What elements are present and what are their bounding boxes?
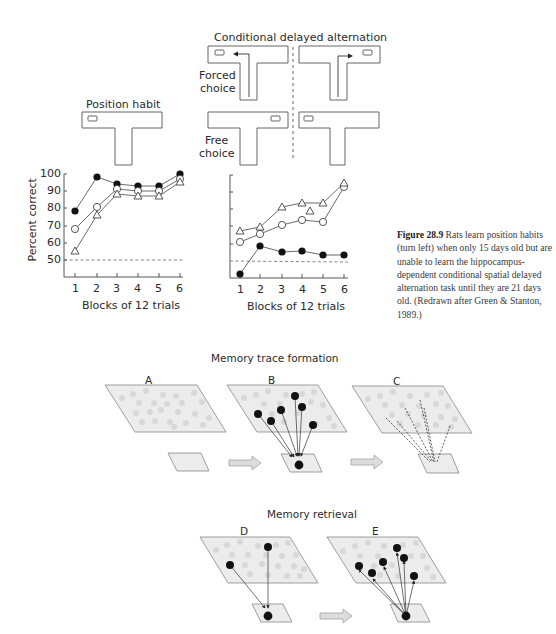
hippocampus-plane-d <box>252 604 292 622</box>
process-arrow-3 <box>320 609 352 623</box>
hippocampus-plane-a <box>168 453 209 471</box>
cortex-plane-c <box>352 386 472 433</box>
cortex-plane-a <box>105 385 226 432</box>
process-arrow-1 <box>229 456 261 470</box>
cortex-plane-e <box>327 537 446 583</box>
process-arrow-2 <box>351 455 383 469</box>
cortex-plane-b <box>227 385 347 432</box>
memory-diagram <box>0 0 556 634</box>
